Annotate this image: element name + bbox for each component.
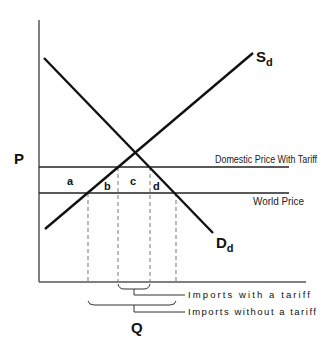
tariff-price-label: Domestic Price With Tariff bbox=[215, 154, 317, 165]
area-a-label: a bbox=[67, 175, 74, 187]
imports-with-tariff-label: Imports with a tariff bbox=[188, 289, 310, 300]
y-axis-label: P bbox=[14, 150, 24, 167]
x-axis-label: Q bbox=[131, 319, 143, 336]
area-c-label: c bbox=[130, 175, 136, 187]
tariff-diagram: Sd Dd P Q Domestic Price With Tariff Wor… bbox=[0, 0, 326, 350]
imports-without-tariff-label: Imports without a tariff bbox=[188, 306, 316, 317]
world-price-label: World Price bbox=[253, 196, 304, 207]
demand-label: Dd bbox=[216, 234, 234, 254]
bracket-imports-with-tariff bbox=[118, 284, 185, 295]
supply-label: Sd bbox=[256, 48, 273, 68]
demand-curve bbox=[44, 58, 213, 233]
area-b-label: b bbox=[104, 180, 111, 192]
area-d-label: d bbox=[153, 180, 160, 192]
supply-curve bbox=[45, 53, 253, 229]
bracket-imports-without-tariff bbox=[88, 301, 185, 312]
